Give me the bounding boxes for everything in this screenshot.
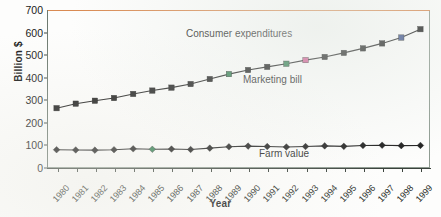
data-point-marker	[130, 91, 135, 96]
data-point-marker	[111, 95, 116, 100]
data-point-marker	[379, 41, 384, 46]
data-point-marker	[188, 81, 193, 86]
data-point-marker	[53, 146, 60, 153]
y-axis-line	[47, 10, 48, 169]
data-point-marker	[322, 54, 327, 59]
data-point-marker	[150, 88, 155, 93]
data-point-marker	[321, 143, 328, 150]
chart-figure: Billion $ Year 0100200300400500600700 19…	[0, 0, 441, 217]
data-point-marker	[168, 146, 175, 153]
data-point-marker	[73, 101, 78, 106]
data-point-marker	[54, 105, 59, 110]
data-point-marker	[341, 50, 346, 55]
data-point-marker	[284, 61, 289, 66]
annotation-consumer-expenditures: Consumer expenditures	[186, 28, 292, 39]
data-point-marker	[92, 98, 97, 103]
annotation-marketing-bill: Marketing bill	[243, 74, 302, 85]
data-point-marker	[341, 143, 348, 150]
data-point-marker	[111, 146, 118, 153]
data-point-marker	[187, 146, 194, 153]
top-artifact-rule	[47, 10, 430, 11]
data-point-marker	[130, 146, 137, 153]
data-point-marker	[226, 71, 231, 76]
data-point-marker	[418, 26, 423, 31]
data-point-marker	[226, 143, 233, 150]
data-point-marker	[92, 147, 99, 154]
data-point-marker	[379, 142, 386, 149]
annotation-farm-value: Farm value	[259, 148, 309, 159]
data-point-marker	[169, 85, 174, 90]
data-point-marker	[245, 67, 250, 72]
data-point-marker	[245, 143, 252, 150]
data-point-marker	[265, 64, 270, 69]
data-point-marker	[149, 146, 156, 153]
x-axis-line	[47, 168, 431, 169]
data-point-marker	[360, 142, 367, 149]
data-point-marker	[303, 57, 308, 62]
data-point-marker	[206, 145, 213, 152]
data-point-marker	[360, 46, 365, 51]
data-point-marker	[399, 35, 404, 40]
data-point-marker	[417, 142, 424, 149]
data-point-marker	[72, 147, 79, 154]
data-point-marker	[398, 142, 405, 149]
data-point-marker	[207, 76, 212, 81]
